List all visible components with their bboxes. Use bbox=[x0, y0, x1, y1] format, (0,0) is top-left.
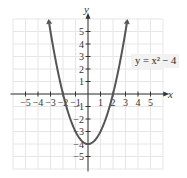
svg-text:3: 3 bbox=[123, 97, 128, 108]
svg-text:−3: −3 bbox=[45, 97, 56, 108]
svg-text:5: 5 bbox=[79, 26, 84, 37]
parabola-chart: −5−4−3−2−112345−5−4−3−2−112345 x y y = x… bbox=[0, 0, 187, 178]
svg-text:−5: −5 bbox=[73, 151, 84, 162]
svg-text:1: 1 bbox=[98, 97, 103, 108]
svg-text:2: 2 bbox=[79, 64, 84, 75]
svg-text:−1: −1 bbox=[73, 101, 84, 112]
svg-text:4: 4 bbox=[136, 97, 141, 108]
svg-text:1: 1 bbox=[79, 76, 84, 87]
equation-label: y = x² − 4 bbox=[131, 54, 179, 68]
svg-text:−2: −2 bbox=[73, 114, 84, 125]
axes bbox=[11, 13, 170, 172]
equation-text: y = x² − 4 bbox=[135, 55, 177, 66]
svg-text:3: 3 bbox=[79, 51, 84, 62]
svg-text:4: 4 bbox=[79, 39, 84, 50]
svg-text:−5: −5 bbox=[20, 97, 31, 108]
svg-text:5: 5 bbox=[148, 97, 153, 108]
y-axis-label: y bbox=[83, 3, 89, 15]
x-axis-label: x bbox=[167, 88, 173, 100]
svg-text:−4: −4 bbox=[33, 97, 44, 108]
